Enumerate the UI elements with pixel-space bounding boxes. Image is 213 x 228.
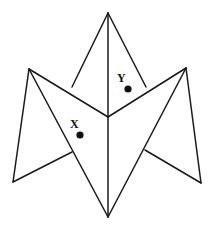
edge-bottom-right-to-right-lower-junction [145,150,201,183]
figure-canvas: X Y [0,0,213,228]
edge-right-upper-to-bottom-right [186,68,201,183]
edge-left-upper-to-center [29,69,108,117]
edge-left-upper-to-bottom-left [13,69,29,182]
edge-bottom-left-to-left-lower-junction [13,152,72,182]
edge-right-upper-to-bottom-apex [108,68,186,217]
point-x-label: X [70,118,79,130]
marked-points [76,85,131,138]
edge-top-apex-to-left-fold [72,13,108,87]
point-y-dot [124,85,131,92]
point-x-dot [76,131,83,138]
polygon-edges [13,13,201,217]
polygon-line-drawing [0,0,213,228]
edge-top-apex-to-right-fold [108,13,146,87]
edge-left-upper-to-bottom-apex [29,69,108,217]
point-y-label: Y [117,72,126,84]
